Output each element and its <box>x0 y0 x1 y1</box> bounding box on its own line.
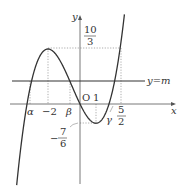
cubic-curve <box>17 14 125 185</box>
five-half-numerator: 5 <box>118 104 124 115</box>
function-graph: y x O y=m 10 3 α −2 β 1 γ 5 2 − 7 6 <box>0 0 187 195</box>
alpha-label: α <box>27 106 34 117</box>
five-half-denominator: 2 <box>118 116 124 127</box>
min-value-sign: − <box>50 133 58 144</box>
origin-label: O <box>82 92 90 103</box>
min-leader-line <box>70 123 78 127</box>
y-axis-label: y <box>71 11 78 22</box>
one-label: 1 <box>93 92 99 103</box>
x-axis-label: x <box>171 105 177 116</box>
min-value-denominator: 6 <box>60 138 66 149</box>
y-axis-arrow-icon <box>78 15 82 20</box>
minus-two-label: −2 <box>42 106 57 117</box>
y-equals-m-label: y=m <box>146 75 171 86</box>
gamma-label: γ <box>106 114 112 125</box>
max-value-numerator: 10 <box>84 24 97 35</box>
min-value-numerator: 7 <box>60 126 66 137</box>
max-value-denominator: 3 <box>87 36 93 47</box>
beta-label: β <box>65 106 72 117</box>
gamma-leader-line <box>110 106 113 112</box>
